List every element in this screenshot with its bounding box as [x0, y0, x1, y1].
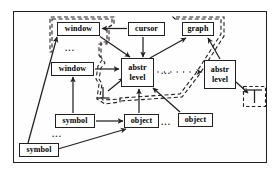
node-label: graph [188, 24, 209, 34]
node-label: symbol [26, 145, 51, 155]
ellipsis-center: ... [161, 68, 171, 74]
node-label: object [131, 116, 152, 126]
node-window-top[interactable]: window [57, 22, 100, 36]
node-abstr-level-center[interactable]: abstr level [121, 58, 154, 87]
node-symbol-bottom[interactable]: symbol [19, 143, 59, 157]
node-label-line2: level [129, 73, 145, 83]
node-object-left[interactable]: object [124, 114, 159, 128]
ellipsis-lower-left: ... [52, 131, 62, 137]
node-label: symbol [62, 116, 87, 126]
node-window-mid[interactable]: window [51, 62, 94, 76]
node-label: window [59, 64, 86, 74]
node-label-line2: level [212, 75, 228, 85]
node-cursor[interactable]: cursor [128, 22, 165, 36]
node-symbol-mid[interactable]: symbol [55, 114, 95, 128]
node-label-line1: abstr [211, 65, 229, 75]
node-abstr-level-right[interactable]: abstr level [204, 60, 236, 89]
node-object-right[interactable]: object [178, 113, 213, 127]
node-label: cursor [135, 24, 158, 34]
node-label-line1: abstr [128, 63, 146, 73]
ellipsis-object: ... [161, 119, 171, 125]
node-label: object [185, 115, 206, 125]
diagram-canvas: window cursor graph window abstr level a… [0, 0, 280, 179]
ellipsis-upper-left: ... [65, 45, 75, 51]
node-label: window [65, 24, 92, 34]
node-graph[interactable]: graph [182, 22, 214, 36]
